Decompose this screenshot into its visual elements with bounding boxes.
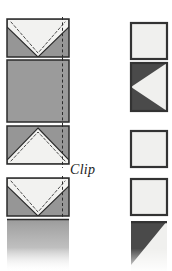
left-step-1-svg	[4, 17, 76, 61]
fabric-body-faded	[7, 219, 69, 271]
left-step-2-plain-square	[4, 58, 76, 124]
fabric-body	[131, 23, 167, 59]
right-result-5-svg	[129, 219, 169, 271]
left-step-3-upward-triangle	[4, 124, 76, 168]
left-step-3-svg	[4, 124, 76, 168]
right-result-1-svg	[129, 21, 169, 61]
left-step-4-envelope-flap	[4, 176, 76, 220]
right-result-4-svg	[129, 177, 169, 217]
right-result-3-white-square	[129, 129, 169, 169]
right-result-2-clipped-corners	[129, 61, 169, 113]
left-step-5-faded-square	[4, 217, 76, 271]
left-step-1-envelope-flap	[4, 17, 76, 61]
clip-label: Clip	[70, 163, 95, 177]
right-result-3-svg	[129, 129, 169, 169]
left-step-5-svg	[4, 217, 76, 271]
fabric-body	[7, 60, 69, 122]
right-result-4-white-square	[129, 177, 169, 217]
fabric-body	[131, 179, 167, 215]
left-step-4-svg	[4, 176, 76, 220]
right-result-5-faded-clipped	[129, 219, 169, 271]
fabric-body	[131, 131, 167, 167]
fade-overlay	[131, 221, 167, 271]
figure-canvas: Clip	[0, 0, 172, 271]
left-step-2-svg	[4, 58, 76, 124]
right-result-2-svg	[129, 61, 169, 113]
right-result-1-white-square	[129, 21, 169, 61]
